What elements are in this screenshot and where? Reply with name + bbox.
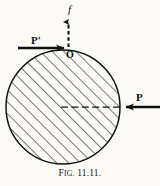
label-point-o: O — [66, 50, 74, 60]
figure-caption: FIG. 11.11. — [0, 168, 160, 178]
label-force-p-prime: P' — [31, 35, 41, 46]
caption-smallcaps: IG. — [64, 169, 75, 178]
label-force-f: f — [68, 4, 71, 15]
label-force-p: P — [136, 92, 143, 103]
caption-number: 11.11. — [75, 168, 102, 178]
